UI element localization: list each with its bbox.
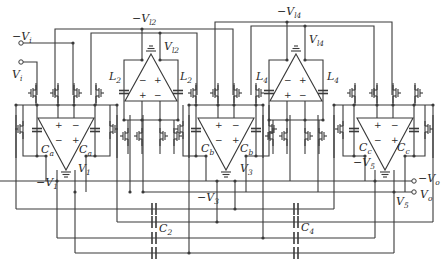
ca-right-label: Ca — [79, 143, 92, 158]
l4-left-label: L4 — [255, 70, 268, 85]
mos-switch — [347, 85, 355, 103]
mos-switch — [160, 128, 168, 146]
junction-dot — [392, 190, 395, 193]
vo-terminal[interactable] — [412, 190, 416, 194]
coupling-cap-c2-group — [152, 203, 156, 259]
junction-dot — [285, 58, 288, 61]
junction-dot — [35, 154, 38, 157]
plus-sign: + — [374, 120, 382, 130]
neg-v5-label: −V5 — [353, 156, 375, 171]
cc-right-label: Cc — [397, 141, 410, 156]
plus-sign: + — [154, 75, 162, 85]
junction-dot — [303, 24, 306, 27]
junction-dot — [216, 103, 219, 106]
mos-switch — [234, 85, 242, 103]
minus-sign: − — [284, 75, 292, 85]
inductor-amplifier-2 — [124, 46, 178, 154]
minus-sign: − — [299, 90, 307, 100]
input-terminals — [19, 41, 73, 95]
minus-sign: − — [232, 120, 240, 130]
vl2-label: Vl2 — [164, 40, 179, 55]
junction-dot — [233, 207, 236, 210]
mos-switch — [279, 128, 287, 146]
junction-dot — [56, 103, 59, 106]
amplifier-triangle — [125, 54, 177, 101]
junction-dot — [391, 103, 394, 106]
minus-sign: − — [55, 135, 63, 145]
junction-dot — [176, 118, 179, 121]
vi-label: Vi — [12, 68, 23, 83]
mos-switch — [425, 121, 433, 139]
junction-dot — [194, 103, 197, 106]
junction-dot — [71, 41, 74, 44]
junction-dot — [431, 103, 434, 106]
junction-dot — [215, 179, 218, 182]
junction-dot — [267, 118, 270, 121]
neg-v3-label: −V3 — [197, 191, 219, 206]
junction-dot — [321, 118, 324, 121]
junction-dot — [72, 103, 75, 106]
junction-dot — [93, 154, 96, 157]
junction-dot — [285, 20, 288, 23]
minus-sign: − — [154, 90, 162, 100]
top-bus-wires — [55, 22, 392, 95]
coupling-cap — [294, 203, 298, 259]
plus-sign: + — [55, 120, 63, 130]
mos-switch — [369, 85, 377, 103]
junction-dot — [158, 58, 161, 61]
plus-sign: + — [232, 135, 240, 145]
junction-dot — [254, 103, 257, 106]
v5-label: V5 — [396, 195, 409, 210]
neg-vl4-label: −Vl4 — [277, 5, 302, 20]
mos-switch — [305, 128, 313, 146]
plus-sign: + — [215, 120, 223, 130]
mos-switch — [120, 128, 128, 146]
junction-dot — [73, 190, 76, 193]
junction-dot — [285, 118, 288, 121]
ca-left-label: Ca — [41, 143, 54, 158]
minus-sign: − — [215, 135, 223, 145]
mos-switch — [256, 85, 264, 103]
mos-switch — [74, 85, 82, 103]
l4-right-label: L4 — [326, 70, 339, 85]
junction-dot — [187, 103, 190, 106]
minus-sign: − — [72, 120, 80, 130]
circuit-diagram: +−−++−−++−−+−++−−++− −Vi Vi −Vl2 Vl2 −Vl… — [0, 0, 444, 269]
junction-dot — [140, 27, 143, 30]
neg-v1-label: −V1 — [36, 176, 58, 191]
mos-switch — [50, 85, 58, 103]
vo-label: Vo — [420, 188, 433, 203]
junction-dot — [194, 154, 197, 157]
vi-terminal[interactable] — [19, 60, 23, 64]
junction-dot — [115, 103, 118, 106]
junction-dot — [141, 190, 144, 193]
junction-dot — [303, 118, 306, 121]
junction-dot — [303, 58, 306, 61]
junction-dot — [35, 103, 38, 106]
plus-sign: + — [299, 75, 307, 85]
mos-switch — [210, 85, 218, 103]
neg-vo-label: −Vo — [418, 172, 440, 187]
ground-icon — [380, 172, 390, 177]
junction-dot — [128, 190, 131, 193]
junction-dot — [352, 103, 355, 106]
junction-dot — [14, 103, 17, 106]
l2-left-label: L2 — [108, 70, 121, 85]
junction-dot — [215, 220, 218, 223]
l2-right-label: L2 — [179, 70, 192, 85]
plus-sign: + — [284, 90, 292, 100]
junction-dot — [140, 58, 143, 61]
amplifier-triangle — [270, 54, 322, 101]
mos-switch — [188, 85, 196, 103]
neg-vo-terminal[interactable] — [412, 179, 416, 183]
neg-vl2-label: −Vl2 — [132, 12, 157, 27]
v3-label: V3 — [240, 162, 253, 177]
junction-dot — [412, 154, 415, 157]
minus-sign: − — [374, 135, 382, 145]
neg-vi-label: −Vi — [12, 30, 32, 45]
junction-dot — [187, 251, 190, 254]
minus-sign: − — [139, 75, 147, 85]
junction-dot — [140, 118, 143, 121]
c2-label: C2 — [159, 222, 172, 237]
ground-icon — [61, 172, 71, 177]
